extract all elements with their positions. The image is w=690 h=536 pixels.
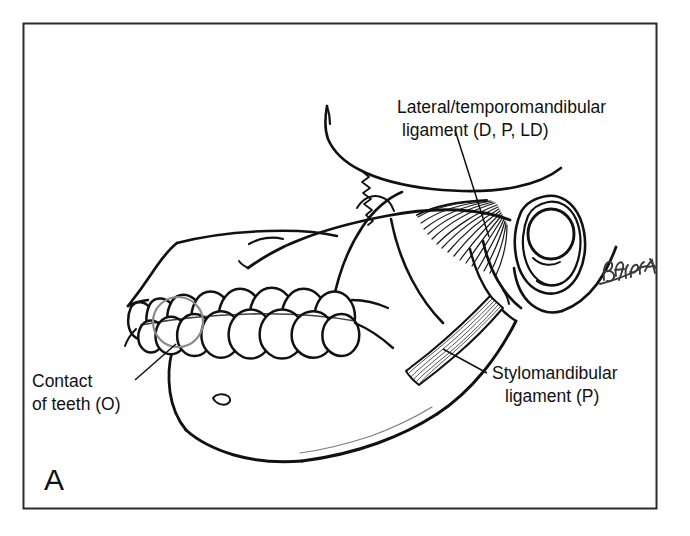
label-contact-of-teeth-line2: of teeth (O): [32, 394, 121, 414]
figure-background: [0, 0, 690, 536]
external-auditory-meatus-icon: [528, 209, 574, 259]
label-lateral-ligament-line2: ligament (D, P, LD): [402, 120, 549, 140]
anatomical-figure-panel: Lateral/temporomandibular ligament (D, P…: [0, 0, 690, 536]
label-stylomandibular-line2: ligament (P): [505, 386, 599, 406]
label-contact-of-teeth-line1: Contact: [32, 371, 92, 391]
label-lateral-ligament-line1: Lateral/temporomandibular: [397, 97, 606, 117]
figure-illustration: Lateral/temporomandibular ligament (D, P…: [0, 0, 690, 536]
label-stylomandibular-line1: Stylomandibular: [492, 363, 618, 383]
panel-letter-a: A: [44, 463, 64, 496]
